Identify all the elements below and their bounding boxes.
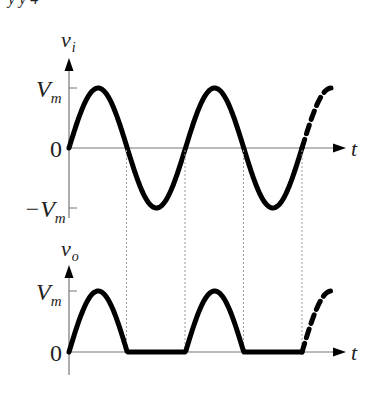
half-wave-rectifier-diagram: y y 4 vi t Vm 0 −Vm vo t <box>0 0 380 417</box>
input-xlabel: t <box>351 136 358 161</box>
output-plot: vo t Vm 0 <box>36 236 358 375</box>
input-tick-vm: Vm <box>36 76 62 106</box>
output-x-arrow-icon <box>333 348 346 357</box>
input-sine-continuation <box>302 88 331 148</box>
output-xlabel: t <box>351 340 358 365</box>
output-tick-vm: Vm <box>36 279 62 309</box>
output-rectified-continuation <box>302 291 331 352</box>
time-guides <box>127 150 303 352</box>
output-y-arrow-icon <box>65 265 74 278</box>
input-x-arrow-icon <box>333 144 346 153</box>
input-y-arrow-icon <box>65 58 74 71</box>
input-tick-neg-vm: −Vm <box>24 196 66 226</box>
clipped-header-text: y y 4 <box>6 0 38 8</box>
output-ylabel: vo <box>61 236 79 264</box>
output-tick-zero: 0 <box>50 340 62 366</box>
input-ylabel: vi <box>61 27 76 55</box>
input-tick-zero: 0 <box>50 136 62 162</box>
input-plot: vi t Vm 0 −Vm <box>24 27 358 226</box>
